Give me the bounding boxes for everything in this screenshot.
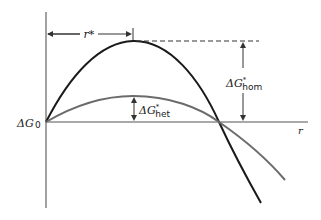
x-axis-label: r (298, 125, 304, 136)
het-barrier-label: ΔG*het (138, 103, 170, 119)
origin-label: 0 (35, 120, 41, 130)
critical-radius-label: r* (84, 28, 95, 41)
nucleation-energy-diagram: r* ΔG*hom ΔG*het ΔG 0 r (0, 0, 321, 220)
critical-radius-annotation: r* (47, 28, 133, 41)
het-barrier-annotation: ΔG*het (131, 97, 170, 121)
hom-barrier-annotation: ΔG*hom (225, 42, 262, 121)
y-axis-label: ΔG (16, 117, 34, 130)
hom-barrier-label: ΔG*hom (225, 76, 262, 92)
